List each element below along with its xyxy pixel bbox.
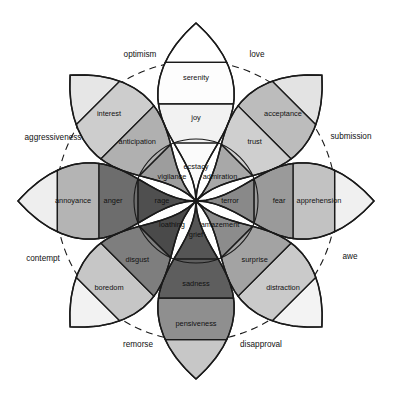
emotion-label-boredom: boredom: [94, 283, 123, 292]
emotion-label-loathing: loathing: [159, 220, 185, 229]
emotion-label-pensiveness: pensiveness: [175, 319, 216, 328]
emotion-label-disgust: disgust: [126, 255, 149, 264]
dyad-label-love: love: [249, 50, 264, 59]
plutchik-wheel-figure: ecstacyjoyserenityadmirationtrustaccepta…: [0, 0, 394, 402]
dyad-label-optimism: optimism: [124, 50, 157, 59]
dyad-label-submission: submission: [331, 132, 372, 141]
emotion-label-amazement: amazement: [201, 220, 240, 229]
petal-tip-anger: [18, 170, 57, 232]
emotion-label-interest: interest: [97, 109, 121, 118]
dyad-label-disapproval: disapproval: [240, 340, 282, 349]
petal-tip-joy: [165, 23, 227, 62]
emotion-label-vigilance: vigilance: [158, 172, 187, 181]
dyad-label-aggressiveness: aggressiveness: [25, 133, 82, 142]
dyad-label-contempt: contempt: [26, 254, 60, 263]
emotion-label-rage: rage: [155, 196, 170, 205]
emotion-label-annoyance: annoyance: [55, 196, 91, 205]
emotion-label-acceptance: acceptance: [264, 109, 302, 118]
emotion-label-surprise: surprise: [242, 255, 268, 264]
emotion-label-sadness: sadness: [182, 279, 210, 288]
emotion-label-terror: terror: [221, 196, 239, 205]
emotion-label-anger: anger: [104, 196, 123, 205]
emotion-segment-joy[interactable]: [158, 104, 233, 143]
petal-tip-sadness: [165, 340, 227, 379]
emotion-label-anticipation: anticipation: [119, 137, 156, 146]
dyad-label-awe: awe: [342, 252, 357, 261]
emotion-label-admiration: admiration: [203, 172, 238, 181]
dyad-label-remorse: remorse: [123, 340, 153, 349]
wheel-canvas: ecstacyjoyserenityadmirationtrustaccepta…: [0, 0, 394, 402]
emotion-label-grief: grief: [189, 230, 204, 239]
emotion-label-trust: trust: [248, 137, 262, 146]
emotion-label-fear: fear: [273, 196, 286, 205]
emotion-label-distraction: distraction: [266, 283, 300, 292]
emotion-label-apprehension: apprehension: [297, 196, 342, 205]
emotion-label-serenity: serenity: [183, 73, 209, 82]
emotion-label-joy: joy: [190, 113, 201, 122]
emotion-segment-serenity[interactable]: [158, 62, 234, 104]
emotion-label-ecstacy: ecstacy: [183, 162, 208, 171]
